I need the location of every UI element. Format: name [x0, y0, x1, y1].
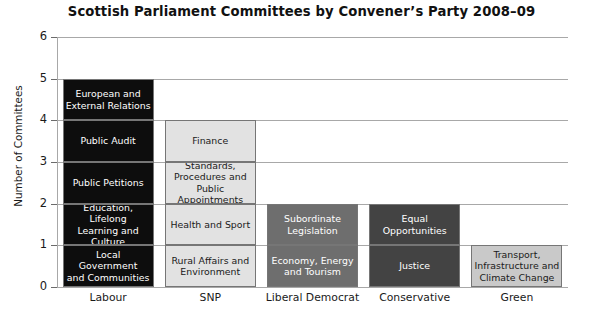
y-tick-mark-4: [51, 120, 57, 121]
chart-title: Scottish Parliament Committees by Conven…: [0, 4, 603, 19]
bar-segment[interactable]: Public Petitions: [63, 162, 154, 204]
y-tick-label-1: 1: [11, 239, 47, 250]
y-tick-mark-5: [51, 79, 57, 80]
y-tick-mark-3: [51, 162, 57, 163]
x-tick-label-liberal-democrat: Liberal Democrat: [261, 291, 363, 304]
bar-snp[interactable]: FinanceStandards, Procedures and Public …: [165, 120, 256, 287]
bar-segment-label: Justice: [372, 260, 457, 271]
bar-segment-label: Finance: [168, 135, 253, 146]
x-tick-label-conservative: Conservative: [364, 291, 466, 304]
y-tick-label-6: 6: [11, 31, 47, 42]
bar-liberal-democrat[interactable]: Subordinate LegislationEconomy, Energy a…: [267, 204, 358, 287]
bar-segment-label: Health and Sport: [168, 219, 253, 230]
bar-segment[interactable]: European and External Relations: [63, 79, 154, 121]
bar-segment[interactable]: Local Government and Communities: [63, 245, 154, 287]
bar-segment-label: European and External Relations: [66, 88, 151, 111]
bar-segment[interactable]: Transport, Infrastructure and Climate Ch…: [471, 245, 562, 287]
y-tick-mark-1: [51, 245, 57, 246]
bar-segment[interactable]: Justice: [369, 245, 460, 287]
plot-area: European and External RelationsPublic Au…: [57, 37, 568, 287]
bar-segment[interactable]: Standards, Procedures and Public Appoint…: [165, 162, 256, 204]
bar-segment[interactable]: Finance: [165, 120, 256, 162]
y-axis-title: Number of Committees: [12, 66, 24, 226]
bar-labour[interactable]: European and External RelationsPublic Au…: [63, 79, 154, 287]
bar-segment-label: Transport, Infrastructure and Climate Ch…: [474, 249, 559, 283]
bar-segment-label: Rural Affairs and Environment: [168, 255, 253, 278]
bar-segment[interactable]: Economy, Energy and Tourism: [267, 245, 358, 287]
stacked-bar-chart: Scottish Parliament Committees by Conven…: [0, 0, 603, 317]
y-tick-mark-6: [51, 37, 57, 38]
bar-segment[interactable]: Subordinate Legislation: [267, 204, 358, 246]
bar-green[interactable]: Transport, Infrastructure and Climate Ch…: [471, 245, 562, 287]
y-tick-label-0: 0: [11, 281, 47, 292]
bar-segment-label: Standards, Procedures and Public Appoint…: [168, 162, 253, 204]
bar-segment-label: Public Petitions: [66, 177, 151, 188]
bar-segment[interactable]: Education, Lifelong Learning and Culture: [63, 204, 154, 246]
bar-conservative[interactable]: Equal OpportunitiesJustice: [369, 204, 460, 287]
bar-segment-label: Local Government and Communities: [66, 249, 151, 283]
x-tick-label-snp: SNP: [159, 291, 261, 304]
bar-segment-label: Economy, Energy and Tourism: [270, 255, 355, 278]
bar-segment[interactable]: Health and Sport: [165, 204, 256, 246]
y-tick-mark-0: [51, 287, 57, 288]
x-tick-label-green: Green: [466, 291, 568, 304]
bar-segment-label: Equal Opportunities: [372, 213, 457, 236]
bar-segment[interactable]: Rural Affairs and Environment: [165, 245, 256, 287]
bar-segment[interactable]: Public Audit: [63, 120, 154, 162]
bar-segment-label: Subordinate Legislation: [270, 213, 355, 236]
gridline-6: [57, 37, 568, 38]
bar-segment-label: Education, Lifelong Learning and Culture: [66, 204, 151, 246]
bar-segment-label: Public Audit: [66, 135, 151, 146]
y-tick-mark-2: [51, 204, 57, 205]
gridline-0: [57, 287, 568, 288]
x-tick-label-labour: Labour: [57, 291, 159, 304]
bar-segment[interactable]: Equal Opportunities: [369, 204, 460, 246]
